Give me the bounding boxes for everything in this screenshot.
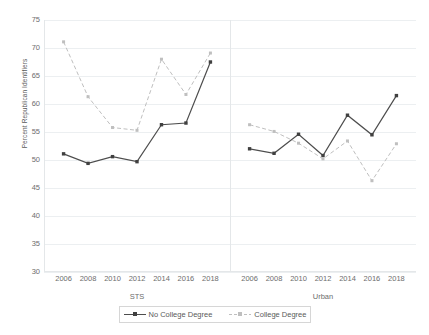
data-point-marker [395, 94, 398, 97]
data-point-marker [111, 155, 114, 158]
data-point-marker [370, 179, 373, 182]
x-axis-tick: 2018 [193, 274, 227, 283]
data-point-marker [62, 152, 65, 155]
legend-line-solid-icon [124, 311, 146, 319]
data-point-marker [62, 40, 65, 43]
series-layer [44, 20, 416, 272]
y-axis-tick: 55 [14, 128, 40, 136]
y-axis-tick: 40 [14, 212, 40, 220]
data-point-marker [111, 126, 114, 129]
data-point-marker [346, 114, 349, 117]
data-point-marker [160, 123, 163, 126]
y-axis-tick: 30 [14, 268, 40, 276]
legend-label: No College Degree [149, 311, 213, 319]
data-point-marker [248, 123, 251, 126]
y-axis-tick: 45 [14, 184, 40, 192]
y-axis-tick: 35 [14, 240, 40, 248]
data-point-marker [248, 147, 251, 150]
data-point-marker [297, 142, 300, 145]
data-point-marker [346, 139, 349, 142]
x-axis-tick: 2018 [379, 274, 413, 283]
legend-line-dashed-icon [229, 311, 251, 319]
y-axis-tick: 70 [14, 44, 40, 52]
data-point-marker [322, 157, 325, 160]
data-point-marker [160, 58, 163, 61]
data-point-marker [184, 93, 187, 96]
data-point-marker [297, 133, 300, 136]
data-point-marker [86, 162, 89, 165]
data-point-marker [135, 160, 138, 163]
data-point-marker [184, 121, 187, 124]
data-point-marker [272, 152, 275, 155]
data-point-marker [87, 95, 90, 98]
y-axis-tick: 65 [14, 72, 40, 80]
y-axis-tick: 50 [14, 156, 40, 164]
chart-legend: No College Degree College Degree [119, 306, 311, 323]
legend-item-no-college-degree[interactable]: No College Degree [124, 311, 213, 319]
panel-label: STS [77, 292, 197, 301]
legend-label: College Degree [254, 311, 306, 319]
legend-item-college-degree[interactable]: College Degree [229, 311, 306, 319]
chart-container: Percent Republican Identifiers 757065605… [0, 0, 429, 335]
data-point-marker [273, 130, 276, 133]
series-line [250, 96, 397, 156]
data-point-marker [395, 142, 398, 145]
plot-area [44, 20, 416, 272]
y-axis-tick: 60 [14, 100, 40, 108]
gridline [44, 272, 416, 273]
series-line [64, 62, 211, 163]
data-point-marker [321, 154, 324, 157]
data-point-marker [209, 52, 212, 55]
panel-label: Urban [263, 292, 383, 301]
data-point-marker [209, 60, 212, 63]
data-point-marker [136, 129, 139, 132]
data-point-marker [370, 133, 373, 136]
y-axis-tick: 75 [14, 16, 40, 24]
